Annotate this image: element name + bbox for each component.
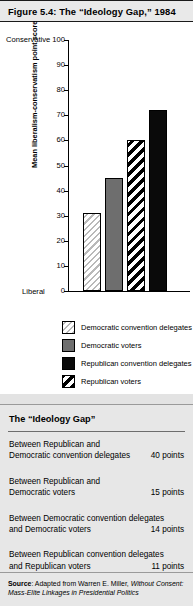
table-row-line-2: and Democratic voters14 points: [9, 524, 184, 535]
y-tick-label: 80: [57, 85, 65, 94]
axis-label-liberal: Liberal: [22, 287, 45, 296]
ideology-gap-table: The “Ideology Gap” Between Republican an…: [0, 404, 193, 572]
y-tick: 50: [68, 166, 73, 167]
source-label: Source: [8, 580, 31, 587]
legend-item-label: Republican convention delegates: [81, 359, 192, 368]
bar: [83, 213, 101, 291]
legend-item: Republican convention delegates: [62, 354, 190, 372]
legend-swatch-icon: [62, 339, 75, 352]
chart-legend: Democratic convention delegatesDemocrati…: [62, 318, 190, 390]
table-row-label: Democratic convention delegates: [9, 450, 130, 461]
legend-item-label: Democratic voters: [81, 341, 141, 350]
y-tick-label: 60: [57, 135, 65, 144]
y-tick: 60: [68, 140, 73, 141]
legend-item-label: Democratic convention delegates: [81, 323, 192, 332]
y-tick: 40: [68, 191, 73, 192]
y-tick: 30: [68, 216, 73, 217]
table-row: Between Republican andDemocratic voters1…: [0, 469, 193, 506]
y-tick-label: 0: [61, 286, 65, 295]
legend-swatch-icon: [62, 375, 75, 388]
table-row-line-1: Between Democratic convention delegates: [9, 513, 184, 524]
table-row-line-2: Democratic voters15 points: [9, 487, 184, 498]
y-tick: 0: [68, 291, 73, 292]
y-tick: 70: [68, 115, 73, 116]
y-tick-label: 70: [57, 110, 65, 119]
table-row-line-1: Between Republican convention delegates: [9, 549, 184, 560]
bar: [127, 140, 145, 291]
source-body: : Adapted from Warren E. Miller,: [31, 580, 130, 587]
table-row-value: 14 points: [147, 524, 184, 535]
panel-divider: [0, 394, 193, 404]
y-tick-label: 20: [57, 236, 65, 245]
source-note: Source: Adapted from Warren E. Miller, W…: [0, 572, 193, 606]
table-row-label: and Democratic voters: [9, 524, 91, 535]
table-row: Between Republican andDemocratic convent…: [0, 432, 193, 469]
table-body: Between Republican andDemocratic convent…: [0, 432, 193, 579]
axis-label-conservative: Conservative: [6, 35, 50, 44]
table-row-line-1: Between Republican and: [9, 439, 184, 450]
table-row: Between Democratic convention delegatesa…: [0, 506, 193, 543]
y-tick-label: 40: [57, 186, 65, 195]
x-axis-line: [68, 291, 190, 292]
y-tick: 10: [68, 266, 73, 267]
y-tick: 100: [68, 40, 73, 41]
plot-area: 0102030405060708090100: [68, 40, 190, 292]
y-tick-label: 10: [57, 261, 65, 270]
table-row-line-1: Between Republican and: [9, 476, 184, 487]
table-row-line-2: Democratic convention delegates40 points: [9, 450, 184, 461]
bar: [105, 178, 123, 291]
table-row-value: 40 points: [147, 450, 184, 461]
table-row-value: 15 points: [147, 487, 184, 498]
chart-panel: Conservative Liberal Mean liberalism-con…: [0, 22, 193, 394]
y-tick: 90: [68, 65, 73, 66]
bar: [149, 110, 167, 291]
legend-swatch-icon: [62, 357, 75, 370]
figure-title: Figure 5.4: The “Ideology Gap,” 1984: [0, 0, 193, 22]
table-row-label: Democratic voters: [9, 487, 75, 498]
y-tick-label: 90: [57, 60, 65, 69]
table-row-label: and Republican voters: [9, 561, 90, 572]
table-title: The “Ideology Gap”: [0, 405, 193, 431]
legend-item: Democratic convention delegates: [62, 318, 190, 336]
table-row-line-2: and Republican voters11 points: [9, 561, 184, 572]
figure-container: Figure 5.4: The “Ideology Gap,” 1984 Con…: [0, 0, 193, 606]
y-tick: 20: [68, 241, 73, 242]
y-tick-label: 50: [57, 161, 65, 170]
legend-item-label: Republican voters: [81, 377, 141, 386]
y-tick-label: 30: [57, 211, 65, 220]
table-row-value: 11 points: [147, 561, 184, 572]
y-tick: 80: [68, 90, 73, 91]
y-axis-title: Mean liberalism-conservatism point score: [30, 21, 39, 168]
y-tick-label: 100: [52, 35, 65, 44]
legend-item: Democratic voters: [62, 336, 190, 354]
legend-swatch-icon: [62, 321, 75, 334]
legend-item: Republican voters: [62, 372, 190, 390]
